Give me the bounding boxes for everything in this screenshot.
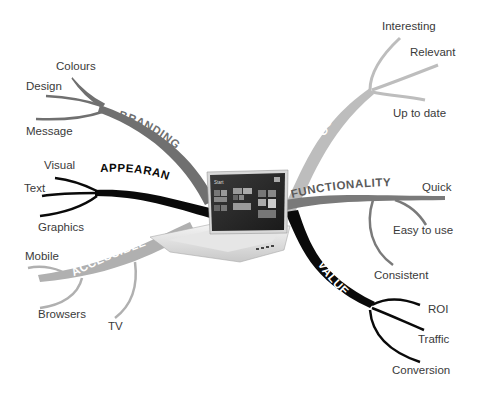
leaf-traffic: Traffic	[418, 333, 450, 345]
branch-functionality-twig-consistent	[370, 200, 393, 265]
leaf-conversion: Conversion	[392, 364, 450, 376]
leaf-mobile: Mobile	[25, 250, 59, 262]
leaf-colours: Colours	[56, 60, 96, 72]
leaf-uptodate: Up to date	[393, 107, 446, 119]
leaf-roi: ROI	[428, 303, 448, 315]
leaf-interesting: Interesting	[382, 20, 436, 32]
branch-appearance	[40, 178, 210, 218]
branch-appearance-twig-visual	[55, 178, 97, 191]
leaf-browsers: Browsers	[38, 308, 86, 320]
branch-value-trunk	[285, 210, 375, 308]
category-label-branding: BRANDING	[118, 108, 183, 151]
mind-map: Start BRANDING APPEARANCE ACCESSIBLE	[0, 0, 477, 395]
leaf-message: Message	[26, 125, 73, 137]
branch-value-twig-roi	[372, 299, 420, 305]
branch-accessible-twig-browsers	[40, 278, 82, 308]
leaf-visual: Visual	[44, 159, 75, 171]
leaf-easytouse: Easy to use	[393, 224, 453, 236]
leaf-graphics: Graphics	[38, 221, 84, 233]
leaf-tv: TV	[108, 320, 123, 332]
branch-appearance-twig-text	[42, 193, 97, 196]
branch-branding-trunk	[98, 105, 215, 205]
branch-value-twig-traffic	[372, 308, 424, 330]
leaf-text: Text	[24, 182, 46, 194]
branch-content-twig-relevant	[372, 65, 438, 90]
leaf-quick: Quick	[422, 181, 452, 193]
laptop-image: Start	[150, 170, 290, 262]
category-label-value: VALUE	[316, 259, 352, 298]
branch-functionality-trunk	[285, 195, 445, 210]
branch-branding-twig-message	[36, 112, 102, 119]
branch-functionality-twig-easy	[395, 200, 426, 225]
leaf-relevant: Relevant	[410, 46, 456, 58]
leaf-design: Design	[26, 80, 62, 92]
branch-appearance-twig-graphics	[40, 196, 97, 216]
branch-accessible-twig-tv	[115, 262, 136, 318]
screen-title: Start	[214, 180, 224, 185]
branch-appearance-trunk	[95, 190, 210, 218]
branch-content-twig-uptodate	[372, 92, 425, 100]
branch-branding	[36, 78, 215, 205]
leaf-consistent: Consistent	[374, 269, 429, 281]
